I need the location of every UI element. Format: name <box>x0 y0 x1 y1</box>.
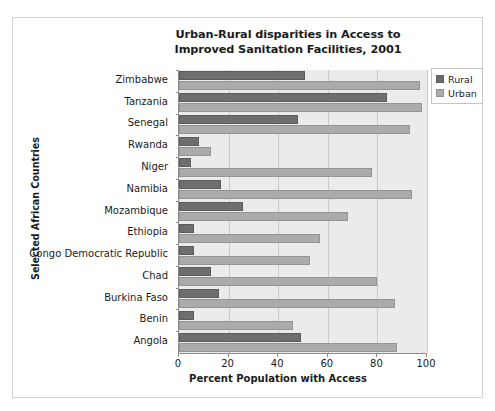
y-axis-tick-label: Senegal <box>128 117 168 128</box>
grid-line <box>427 70 428 353</box>
x-axis-tick <box>277 353 278 357</box>
y-axis-tick <box>176 157 179 158</box>
bar-rural[interactable] <box>179 93 387 102</box>
bar-group <box>179 222 427 244</box>
legend-item-urban[interactable]: Urban <box>436 86 477 100</box>
y-axis-tick <box>176 331 179 332</box>
y-axis-tick-label: Congo Democratic Republic <box>29 248 168 259</box>
chart-title-line-1: Urban-Rural disparities in Access to <box>123 27 453 42</box>
x-axis-tick-label: 100 <box>406 358 446 369</box>
y-axis-tick-label: Niger <box>141 161 168 172</box>
chart-legend: Rural Urban <box>431 68 483 104</box>
x-axis-tick-label: 60 <box>307 358 347 369</box>
x-axis-tick <box>228 353 229 357</box>
bar-urban[interactable] <box>179 299 395 308</box>
y-axis-tick-label: Mozambique <box>104 205 168 216</box>
bar-rural[interactable] <box>179 267 211 276</box>
bar-rural[interactable] <box>179 246 194 255</box>
legend-item-rural[interactable]: Rural <box>436 72 477 86</box>
x-axis-line <box>178 353 427 354</box>
x-axis-tick-label: 0 <box>158 358 198 369</box>
y-axis-tick-label: Rwanda <box>128 139 168 150</box>
y-axis-tick-label: Namibia <box>127 183 168 194</box>
bar-urban[interactable] <box>179 234 320 243</box>
x-axis-tick-label: 80 <box>356 358 396 369</box>
bar-rural[interactable] <box>179 224 194 233</box>
y-axis-tick-label: Zimbabwe <box>115 74 168 85</box>
bar-rural[interactable] <box>179 333 301 342</box>
bar-urban[interactable] <box>179 321 293 330</box>
legend-label-urban: Urban <box>448 88 477 99</box>
bar-urban[interactable] <box>179 125 410 134</box>
plot-area <box>178 70 427 353</box>
y-axis-tick-label: Tanzania <box>124 96 168 107</box>
bar-group <box>179 266 427 288</box>
y-axis-tick <box>176 309 179 310</box>
bar-rural[interactable] <box>179 180 221 189</box>
bar-group <box>179 179 427 201</box>
y-axis-tick <box>176 222 179 223</box>
bar-rural[interactable] <box>179 311 194 320</box>
bar-rural[interactable] <box>179 158 191 167</box>
y-axis-tick <box>176 70 179 71</box>
y-axis-tick-label: Angola <box>133 335 168 346</box>
y-axis-tick <box>176 201 179 202</box>
y-axis-tick <box>176 179 179 180</box>
x-axis-tick <box>426 353 427 357</box>
y-axis-tick <box>176 114 179 115</box>
bar-group <box>179 135 427 157</box>
x-axis-tick-label: 40 <box>257 358 297 369</box>
bar-group <box>179 201 427 223</box>
bar-urban[interactable] <box>179 256 310 265</box>
x-axis-tick <box>178 353 179 357</box>
bar-urban[interactable] <box>179 81 420 90</box>
y-axis-tick <box>176 266 179 267</box>
x-axis-tick <box>376 353 377 357</box>
y-axis-tick-label: Benin <box>140 313 168 324</box>
bar-urban[interactable] <box>179 190 412 199</box>
bar-group <box>179 331 427 353</box>
bar-group <box>179 288 427 310</box>
bar-group <box>179 157 427 179</box>
rural-swatch-icon <box>436 75 444 83</box>
chart-title: Urban-Rural disparities in Access to Imp… <box>123 27 453 57</box>
y-axis-tick <box>176 92 179 93</box>
y-axis-tick <box>176 135 179 136</box>
bar-rural[interactable] <box>179 202 243 211</box>
y-axis-tick <box>176 288 179 289</box>
bar-rural[interactable] <box>179 289 219 298</box>
bar-urban[interactable] <box>179 277 377 286</box>
bar-urban[interactable] <box>179 103 422 112</box>
bar-group <box>179 92 427 114</box>
bar-group <box>179 114 427 136</box>
y-axis-tick-label: Chad <box>142 270 168 281</box>
bar-group <box>179 70 427 92</box>
x-axis-tick <box>327 353 328 357</box>
bar-urban[interactable] <box>179 212 348 221</box>
bar-group <box>179 244 427 266</box>
y-axis-tick <box>176 244 179 245</box>
bar-urban[interactable] <box>179 343 397 352</box>
x-axis-title: Percent Population with Access <box>113 373 443 384</box>
chart-figure: Urban-Rural disparities in Access to Imp… <box>12 17 483 398</box>
bar-urban[interactable] <box>179 168 372 177</box>
bar-group <box>179 309 427 331</box>
bar-rural[interactable] <box>179 71 305 80</box>
bar-urban[interactable] <box>179 147 211 156</box>
y-axis-tick-label: Ethiopia <box>127 226 168 237</box>
bar-rural[interactable] <box>179 137 199 146</box>
legend-label-rural: Rural <box>448 74 473 85</box>
y-axis-tick-labels: ZimbabweTanzaniaSenegalRwandaNigerNamibi… <box>13 70 173 353</box>
bar-rural[interactable] <box>179 115 298 124</box>
chart-title-line-2: Improved Sanitation Facilities, 2001 <box>123 42 453 57</box>
x-axis-tick-label: 20 <box>208 358 248 369</box>
urban-swatch-icon <box>436 89 444 97</box>
y-axis-tick-label: Burkina Faso <box>104 292 168 303</box>
